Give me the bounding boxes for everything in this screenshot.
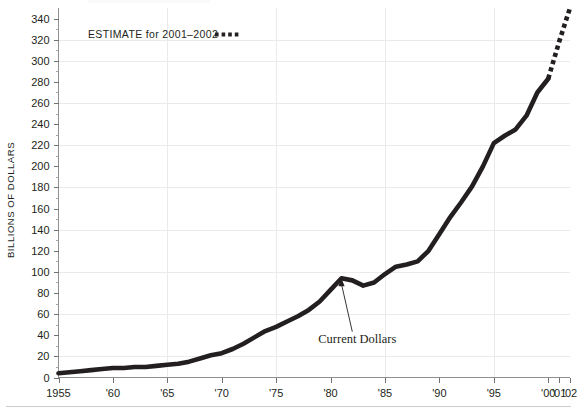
legend: ESTIMATE for 2001–2002 xyxy=(88,28,239,40)
line-chart: 0204060801001201401601802002202402602803… xyxy=(0,0,577,412)
y-tick-label: 120 xyxy=(31,245,49,257)
y-axis-tick-labels: 0204060801001201401601802002202402602803… xyxy=(31,13,49,384)
horizontal-gridlines xyxy=(59,41,571,357)
y-tick-label: 340 xyxy=(31,13,49,25)
x-tick-label: '75 xyxy=(269,387,283,399)
y-tick-label: 320 xyxy=(31,34,49,46)
legend-label: ESTIMATE for 2001–2002 xyxy=(88,28,218,40)
y-tick-label: 100 xyxy=(31,266,49,278)
y-tick-label: 260 xyxy=(31,97,49,109)
y-tick-label: 40 xyxy=(37,329,49,341)
y-tick-label: 200 xyxy=(31,160,49,172)
series-estimate-line xyxy=(548,8,570,79)
y-tick-label: 240 xyxy=(31,118,49,130)
series-current-dollars-line xyxy=(59,79,549,374)
y-tick-label: 0 xyxy=(43,372,49,384)
vertical-gridlines xyxy=(168,8,495,378)
annotation-label: Current Dollars xyxy=(318,332,396,346)
y-tick-label: 80 xyxy=(37,287,49,299)
y-tick-label: 60 xyxy=(37,308,49,320)
x-tick-label: '60 xyxy=(106,387,120,399)
y-axis-title: BILLIONS OF DOLLARS xyxy=(5,142,16,258)
y-tick-label: 280 xyxy=(31,76,49,88)
y-tick-label: 20 xyxy=(37,350,49,362)
x-tick-label: '02 xyxy=(563,387,577,399)
top-crop-artifact xyxy=(88,0,210,3)
y-tick-label: 300 xyxy=(31,55,49,67)
x-axis-ticks xyxy=(60,378,571,383)
x-tick-label: '70 xyxy=(215,387,229,399)
x-tick-label: '65 xyxy=(160,387,174,399)
x-tick-label: '80 xyxy=(323,387,337,399)
y-tick-label: 220 xyxy=(31,139,49,151)
y-tick-label: 140 xyxy=(31,224,49,236)
y-tick-label: 160 xyxy=(31,203,49,215)
x-tick-label: '95 xyxy=(487,387,501,399)
x-tick-label: '90 xyxy=(432,387,446,399)
chart-container: 0204060801001201401601802002202402602803… xyxy=(0,0,577,412)
y-tick-label: 180 xyxy=(31,181,49,193)
x-tick-label: 1955 xyxy=(46,387,70,399)
y-axis-ticks xyxy=(54,20,59,379)
x-axis-tick-labels: 1955'60'65'70'75'80'85'90'95'00'01'02 xyxy=(46,387,577,399)
x-tick-label: '85 xyxy=(378,387,392,399)
annotation-arrow-icon xyxy=(342,284,353,332)
